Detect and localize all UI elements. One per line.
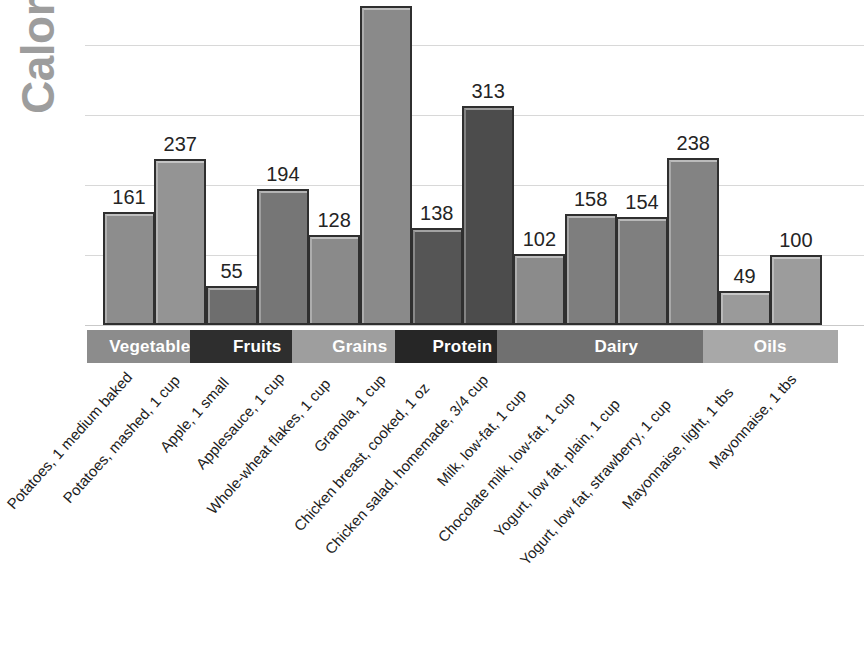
bar — [513, 254, 565, 325]
group-segment-dairy: Dairy — [497, 330, 735, 363]
calories-bar-chart: Calories 1612375519412813831310215815423… — [0, 0, 864, 654]
bar — [308, 235, 360, 325]
bar-highlight — [310, 237, 358, 323]
group-label: Vegetables — [109, 337, 200, 357]
bar-value-label: 55 — [200, 260, 264, 283]
x-axis-baseline — [85, 325, 864, 326]
plot-area: 1612375519412813831310215815423849100 — [85, 0, 864, 326]
bar-value-label: 161 — [97, 186, 161, 209]
group-label: Protein — [432, 337, 492, 357]
bar-highlight — [156, 161, 204, 323]
bar — [616, 217, 668, 325]
bar-value-label: 313 — [456, 80, 520, 103]
bar-highlight — [464, 108, 512, 323]
category-label: Milk, low-fat, 1 cup — [434, 386, 529, 489]
bar-value-label: 49 — [713, 265, 777, 288]
bar-highlight — [669, 160, 717, 323]
food-group-band: VegetablesFruitsGrainsProteinDairyOils — [85, 330, 864, 363]
bar-highlight — [772, 257, 820, 323]
group-label: Oils — [754, 337, 787, 357]
bar-value-label: 102 — [507, 228, 571, 251]
bar-highlight — [721, 293, 769, 323]
group-label: Grains — [332, 337, 387, 357]
bar-highlight — [567, 216, 615, 323]
bar — [257, 189, 309, 325]
group-segment-oils: Oils — [703, 330, 838, 363]
bar — [206, 286, 258, 325]
bar-value-label: 194 — [251, 163, 315, 186]
bar-highlight — [515, 256, 563, 323]
bar — [462, 106, 514, 325]
bar-highlight — [413, 230, 461, 323]
bar — [770, 255, 822, 325]
bar — [103, 212, 155, 325]
bar — [411, 228, 463, 325]
bar-highlight — [259, 191, 307, 323]
bar-value-label: 154 — [610, 191, 674, 214]
bar-value-label: 138 — [405, 202, 469, 225]
bar-value-label: 238 — [661, 132, 725, 155]
bar — [360, 6, 412, 325]
bar-value-label: 128 — [302, 209, 366, 232]
bar — [719, 291, 771, 325]
bar — [565, 214, 617, 325]
bar-highlight — [105, 214, 153, 323]
bar-highlight — [618, 219, 666, 323]
group-label: Fruits — [233, 337, 281, 357]
gridline-400 — [85, 45, 864, 46]
bar-highlight — [362, 8, 410, 323]
bar — [667, 158, 719, 325]
bar-value-label: 100 — [764, 229, 828, 252]
bar — [154, 159, 206, 325]
category-axis-labels: Potatoes, 1 medium bakedPotatoes, mashed… — [0, 363, 864, 654]
bar-value-label: 237 — [148, 133, 212, 156]
y-axis-title: Calories — [2, 0, 74, 114]
group-label: Dairy — [595, 337, 639, 357]
bar-highlight — [208, 288, 256, 323]
